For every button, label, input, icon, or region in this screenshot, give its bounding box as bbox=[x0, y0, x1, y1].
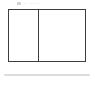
toolbar-label[interactable]: File bbox=[23, 2, 27, 5]
app-root: File Edit View bbox=[0, 0, 95, 90]
toolbar-secondary-label[interactable]: Edit View bbox=[29, 2, 40, 5]
left-pane-label bbox=[9, 10, 38, 14]
document-frame bbox=[8, 9, 86, 62]
right-pane-label bbox=[39, 10, 85, 14]
right-pane[interactable] bbox=[39, 10, 85, 61]
left-pane[interactable] bbox=[9, 10, 39, 61]
top-toolbar: File Edit View bbox=[0, 0, 95, 7]
menu-icon[interactable] bbox=[17, 2, 21, 5]
horizontal-rule bbox=[4, 74, 90, 76]
frame-caption bbox=[10, 63, 86, 67]
